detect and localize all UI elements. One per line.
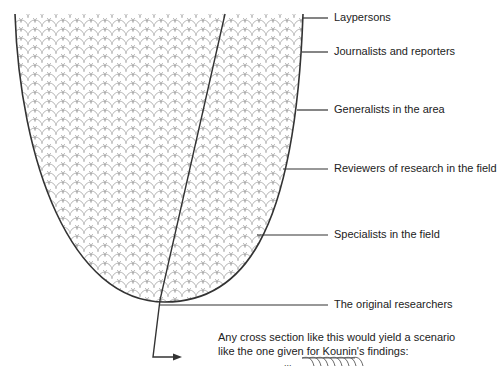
- label-laypersons: Laypersons: [334, 11, 391, 24]
- note-line-1: Any cross section like this would yield …: [218, 330, 455, 344]
- cross-section-note: Any cross section like this would yield …: [218, 330, 455, 358]
- note-ellipsis: ...: [284, 358, 292, 368]
- label-specialists: Specialists in the field: [334, 228, 440, 241]
- bowl-fill-pattern: [0, 14, 320, 314]
- label-reviewers: Reviewers of research in the field: [334, 162, 497, 175]
- scale-fragment-icon: [302, 357, 363, 366]
- note-line-2: like the one given for Kounin's findings…: [218, 344, 455, 358]
- label-journalists: Journalists and reporters: [334, 45, 455, 58]
- arrow-head-icon: [173, 354, 182, 361]
- label-generalists: Generalists in the area: [334, 103, 445, 116]
- label-original: The original researchers: [334, 298, 453, 311]
